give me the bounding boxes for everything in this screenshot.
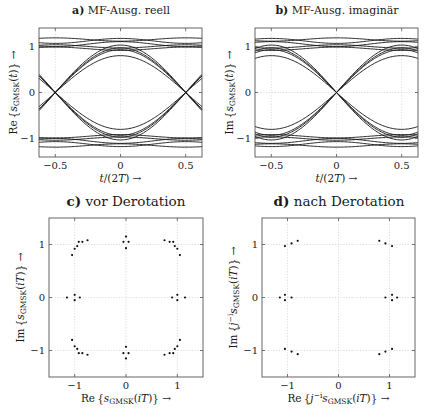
scatter-point: [125, 247, 127, 249]
scatter-point: [284, 294, 286, 296]
scatter-point: [76, 245, 78, 247]
x-tick-label: 0.5: [394, 160, 410, 171]
x-tick-label: 0: [333, 160, 339, 171]
x-tick-label: 0: [335, 380, 341, 391]
scatter-point: [174, 348, 176, 350]
scatter-point: [74, 248, 76, 250]
x-tick-label: −0.5: [43, 160, 67, 171]
scatter-point: [378, 353, 380, 355]
y-axis-label-d: Im {j−isGMSK(iT)} →: [226, 246, 241, 348]
scatter-point: [284, 245, 286, 247]
scatter-point: [179, 254, 181, 256]
scatter-point: [279, 296, 281, 298]
y-axis-label-a: Re {sGMSK(t)} →: [7, 50, 21, 134]
scatter-point: [176, 294, 178, 296]
scatter-point: [384, 296, 386, 298]
scatter-point: [81, 352, 83, 354]
y-axis-label-c: Im {sGMSK(iT)} →: [14, 252, 28, 342]
x-tick-label: 1: [386, 380, 392, 391]
scatter-point: [297, 353, 299, 355]
scatter-point: [172, 241, 174, 243]
scatter-point: [290, 350, 292, 352]
scatter-point: [391, 299, 393, 301]
scatter-point: [176, 345, 178, 347]
scatter-point: [163, 354, 165, 356]
scatter-point: [71, 254, 73, 256]
scatter-point: [171, 296, 173, 298]
scatter-point: [86, 354, 88, 356]
x-tick-label: −1: [67, 380, 82, 391]
scatter-point: [284, 348, 286, 350]
scatter-point: [74, 299, 76, 301]
scatter-point: [378, 240, 380, 242]
x-axis-label-d: Re {j−isGMSK(iT)} →: [287, 391, 389, 406]
scatter-point: [127, 352, 129, 354]
y-tick-label: −1: [30, 345, 45, 356]
y-tick-label: 0: [29, 87, 35, 98]
scatter-point: [71, 339, 73, 341]
scatter-point: [297, 240, 299, 242]
scatter-point: [78, 352, 80, 354]
y-tick-label: 0: [245, 87, 251, 98]
y-tick-label: 0: [39, 292, 45, 303]
scatter-point: [176, 299, 178, 301]
chart-c: −101−101Re {sGMSK(iT)} →Im {sGMSK(iT)} →: [14, 218, 203, 406]
scatter-point: [81, 241, 83, 243]
y-tick-label: 1: [39, 239, 45, 250]
x-tick-label: −0.5: [259, 160, 283, 171]
y-tick-label: −1: [243, 345, 258, 356]
y-tick-label: 1: [245, 41, 251, 52]
scatter-point: [169, 241, 171, 243]
x-tick-label: 0.5: [178, 160, 194, 171]
y-tick-label: −1: [20, 133, 35, 144]
scatter-point: [86, 239, 88, 241]
scatter-point: [290, 242, 292, 244]
scatter-point: [179, 339, 181, 341]
scatter-point: [384, 350, 386, 352]
x-tick-label: 0: [117, 160, 123, 171]
x-tick-label: 1: [174, 380, 180, 391]
scatter-point: [391, 348, 393, 350]
scatter-point: [384, 242, 386, 244]
figure-canvas: −0.500.5−101t/(2T) →Re {sGMSK(t)} →−0.50…: [0, 0, 431, 420]
scatter-point: [391, 245, 393, 247]
scatter-point: [290, 296, 292, 298]
scatter-point: [284, 299, 286, 301]
scatter-point: [125, 235, 127, 237]
x-axis-label-c: Re {sGMSK(iT)} →: [81, 392, 171, 406]
chart-d: −101−101Re {j−isGMSK(iT)} →Im {j−isGMSK(…: [226, 218, 415, 406]
y-tick-label: 0: [252, 292, 258, 303]
scatter-point: [125, 346, 127, 348]
scatter-point: [122, 352, 124, 354]
x-axis-label-b: t/(2T) →: [316, 172, 358, 184]
scatter-point: [391, 294, 393, 296]
x-tick-label: 0: [123, 380, 129, 391]
scatter-point: [396, 296, 398, 298]
y-tick-label: −1: [236, 133, 251, 144]
x-axis-label-a: t/(2T) →: [100, 172, 142, 184]
scatter-point: [172, 352, 174, 354]
scatter-point: [174, 245, 176, 247]
scatter-point: [163, 239, 165, 241]
scatter-point: [127, 241, 129, 243]
chart-a: −0.500.5−101t/(2T) →Re {sGMSK(t)} →: [7, 28, 202, 184]
scatter-point: [74, 294, 76, 296]
y-axis-label-b: Im {sGMSK(t)} →: [223, 50, 237, 134]
scatter-point: [78, 241, 80, 243]
scatter-point: [176, 248, 178, 250]
y-tick-label: 1: [29, 41, 35, 52]
scatter-point: [76, 348, 78, 350]
scatter-point: [184, 296, 186, 298]
scatter-point: [79, 296, 81, 298]
scatter-point: [66, 296, 68, 298]
chart-b: −0.500.5−101t/(2T) →Im {sGMSK(t)} →: [223, 28, 418, 184]
y-tick-label: 1: [252, 239, 258, 250]
x-tick-label: −1: [280, 380, 295, 391]
scatter-point: [74, 345, 76, 347]
scatter-point: [125, 357, 127, 359]
scatter-point: [169, 352, 171, 354]
scatter-point: [122, 241, 124, 243]
